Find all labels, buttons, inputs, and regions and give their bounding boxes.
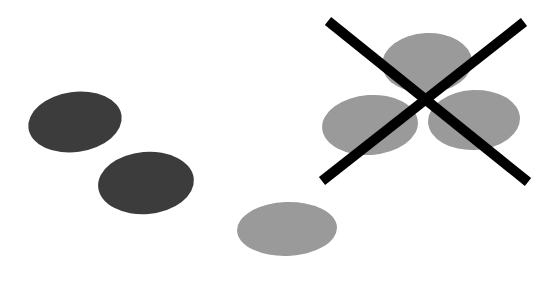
figure-canvas xyxy=(0,0,536,286)
figure-svg xyxy=(0,0,536,286)
